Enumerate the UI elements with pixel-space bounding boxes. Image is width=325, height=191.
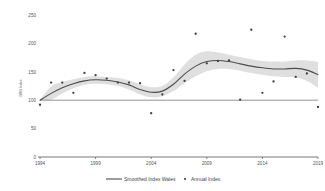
x-tick-label: 2014: [257, 161, 268, 166]
index-chart: 050100150200250 199419992004200920142019…: [0, 0, 325, 191]
data-point: [217, 60, 219, 62]
x-tick-label: 1999: [90, 161, 101, 166]
data-point: [295, 76, 297, 78]
legend-label-annual: Annual Index: [191, 176, 221, 182]
data-point: [106, 77, 108, 79]
y-tick-label: 200: [28, 41, 36, 46]
data-point: [172, 69, 174, 71]
y-axis-title: BRB Index: [19, 79, 23, 96]
chart-container: 050100150200250 199419992004200920142019…: [0, 0, 325, 191]
y-tick-label: 250: [28, 13, 36, 18]
data-point: [195, 33, 197, 35]
data-point: [261, 92, 263, 94]
data-point: [139, 82, 141, 84]
data-point: [150, 112, 152, 114]
x-tick-label: 2009: [202, 161, 213, 166]
data-point: [161, 93, 163, 95]
data-point: [283, 35, 285, 37]
data-point: [206, 62, 208, 64]
y-tick-label: 0: [33, 155, 36, 160]
data-point: [128, 81, 130, 83]
data-point: [306, 72, 308, 74]
data-point: [272, 80, 274, 82]
data-point: [183, 80, 185, 82]
x-tick-label: 1994: [35, 161, 46, 166]
data-point: [61, 81, 63, 83]
x-tick-label: 2004: [146, 161, 157, 166]
data-point: [228, 59, 230, 61]
data-point: [50, 81, 52, 83]
legend-label-smoothed: Smoothed Index Wales: [124, 176, 176, 182]
y-tick-label: 100: [28, 98, 36, 103]
y-tick-label: 150: [28, 70, 36, 75]
data-point: [83, 72, 85, 74]
chart-legend: Smoothed Index Wales Annual Index: [106, 176, 221, 182]
data-point: [94, 74, 96, 76]
data-point: [250, 29, 252, 31]
data-point: [117, 81, 119, 83]
x-tick-label: 2019: [313, 161, 324, 166]
data-point: [39, 104, 41, 106]
data-point: [72, 92, 74, 94]
data-point: [317, 106, 319, 108]
legend-dot-swatch: [184, 178, 186, 180]
y-tick-label: 50: [31, 126, 37, 131]
data-point: [239, 98, 241, 100]
